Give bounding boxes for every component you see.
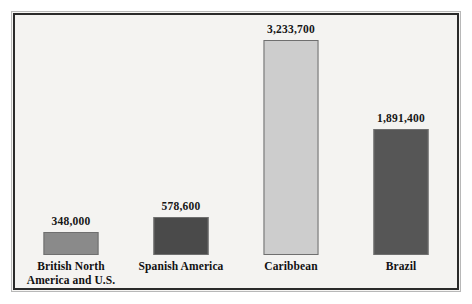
bar-chart-figure: 348,000 British North America and U.S. 5… <box>0 0 472 304</box>
bar-group-caribbean: 3,233,700 Caribbean <box>236 16 346 287</box>
bar-category-label-line-1: Brazil <box>341 260 461 274</box>
bar-category-label-line-1: Spanish America <box>121 260 241 274</box>
bar-category-label-line-2: America and U.S. <box>11 274 131 288</box>
bar-value-label: 3,233,700 <box>236 23 346 35</box>
plot-area: 348,000 British North America and U.S. 5… <box>16 16 456 287</box>
bar-value-label: 578,600 <box>126 200 236 212</box>
bar-group-british-north-america-and-us: 348,000 British North America and U.S. <box>16 16 126 287</box>
bar-category-label: British North America and U.S. <box>11 260 131 287</box>
bar-group-spanish-america: 578,600 Spanish America <box>126 16 236 287</box>
bar-category-label-line-1: British North <box>11 260 131 274</box>
bar-category-label-line-1: Caribbean <box>231 260 351 274</box>
bar-value-label: 348,000 <box>16 215 126 227</box>
bars-layer: 348,000 British North America and U.S. 5… <box>16 16 456 287</box>
bar-value-label: 1,891,400 <box>346 112 456 124</box>
bar-rect <box>374 129 429 255</box>
bar-rect <box>44 232 99 255</box>
bar-category-label: Spanish America <box>121 260 241 274</box>
bar-rect <box>264 40 319 255</box>
bar-category-label: Caribbean <box>231 260 351 274</box>
bar-category-label: Brazil <box>341 260 461 274</box>
bar-rect <box>154 217 209 255</box>
bar-group-brazil: 1,891,400 Brazil <box>346 16 456 287</box>
